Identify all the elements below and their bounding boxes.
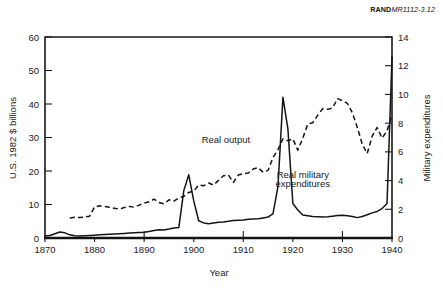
series-annotation: expenditures xyxy=(276,178,331,189)
x-axis-ticks xyxy=(45,231,392,242)
y-axis-left-ticks xyxy=(45,37,52,238)
y-tick-label: 50 xyxy=(28,65,39,76)
y2-tick-label: 12 xyxy=(398,60,409,71)
x-tick-label: 1880 xyxy=(84,244,105,255)
y-axis-left-title: U.S. 1982 $ billions xyxy=(7,97,18,179)
y-tick-label: 20 xyxy=(28,166,39,177)
series-line-real-military-expenditures xyxy=(45,57,392,236)
report-identifier-prefix: RAND xyxy=(370,5,391,14)
y-axis-left-tick-labels: 0102030405060 xyxy=(28,32,39,244)
y-tick-label: 30 xyxy=(28,132,39,143)
data-series-layer xyxy=(45,57,392,236)
report-identifier-number: MR1112-3.12 xyxy=(391,5,435,14)
y2-tick-label: 0 xyxy=(398,233,403,244)
series-annotation: Real output xyxy=(202,134,251,145)
y-tick-label: 10 xyxy=(28,199,39,210)
series-annotations: Real outputReal militaryexpenditures xyxy=(202,134,331,190)
line-chart: 18701880189019001910192019301940 0102030… xyxy=(0,0,443,288)
y2-tick-label: 8 xyxy=(398,118,403,129)
y2-tick-label: 10 xyxy=(398,89,409,100)
x-tick-label: 1940 xyxy=(381,244,402,255)
y-tick-label: 40 xyxy=(28,99,39,110)
x-tick-label: 1920 xyxy=(282,244,303,255)
x-tick-label: 1930 xyxy=(332,244,353,255)
y-axis-right-tick-labels: 02468101214 xyxy=(398,32,409,244)
y-tick-label: 0 xyxy=(34,233,39,244)
y2-tick-label: 6 xyxy=(398,146,403,157)
figure-container: RANDMR1112-3.12 187018801890190019101920… xyxy=(0,0,443,288)
y2-tick-label: 4 xyxy=(398,175,403,186)
y-axis-right-title: Military expenditures xyxy=(421,94,432,181)
x-tick-label: 1900 xyxy=(183,244,204,255)
x-tick-label: 1870 xyxy=(34,244,55,255)
y2-tick-label: 14 xyxy=(398,32,409,43)
report-identifier: RANDMR1112-3.12 xyxy=(370,5,435,14)
x-axis-tick-labels: 18701880189019001910192019301940 xyxy=(34,244,402,255)
series-line-real-output xyxy=(70,99,392,218)
y-tick-label: 60 xyxy=(28,32,39,43)
x-tick-label: 1890 xyxy=(134,244,155,255)
x-axis-title: Year xyxy=(209,267,228,278)
x-tick-label: 1910 xyxy=(233,244,254,255)
y2-tick-label: 2 xyxy=(398,204,403,215)
